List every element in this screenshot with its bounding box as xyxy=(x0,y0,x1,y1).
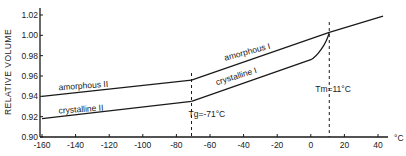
tg-label: Tg=-71°C xyxy=(189,109,226,119)
y-tick-label: 0.96 xyxy=(21,71,38,81)
x-tick-label: -40 xyxy=(237,140,250,150)
x-tick-label: -60 xyxy=(204,140,217,150)
y-tick-label: 0.92 xyxy=(21,112,38,122)
x-tick-label: 20 xyxy=(340,140,350,150)
x-tick-label: -120 xyxy=(101,140,118,150)
amorphous-1-label: amorphous I xyxy=(223,41,271,63)
tm-label: Tm=11°C xyxy=(315,84,351,94)
amorphous-1-line xyxy=(192,16,384,80)
y-tick-label: 0.94 xyxy=(21,91,38,101)
x-tick-label: 0 xyxy=(308,140,313,150)
y-tick-label: 0.98 xyxy=(21,51,38,61)
x-tick-label: -100 xyxy=(134,140,151,150)
y-tick-label: 1.00 xyxy=(21,30,38,40)
x-tick-label: 40 xyxy=(373,140,383,150)
x-tick-label: -140 xyxy=(67,140,84,150)
x-tick-label: -20 xyxy=(271,140,284,150)
crystalline-2-label: crystalline II xyxy=(58,103,103,116)
y-tick-label: 0.90 xyxy=(21,132,38,142)
y-axis-label: RELATIVE VOLUME xyxy=(3,29,13,115)
phase-volume-chart: -160-140-120-100-80-60-40-2002040°C0.900… xyxy=(0,0,406,156)
crystalline-1-label: crystalline I xyxy=(214,65,258,87)
y-tick-label: 1.02 xyxy=(21,10,38,20)
x-unit-label: °C xyxy=(394,133,404,143)
x-tick-label: -80 xyxy=(170,140,183,150)
